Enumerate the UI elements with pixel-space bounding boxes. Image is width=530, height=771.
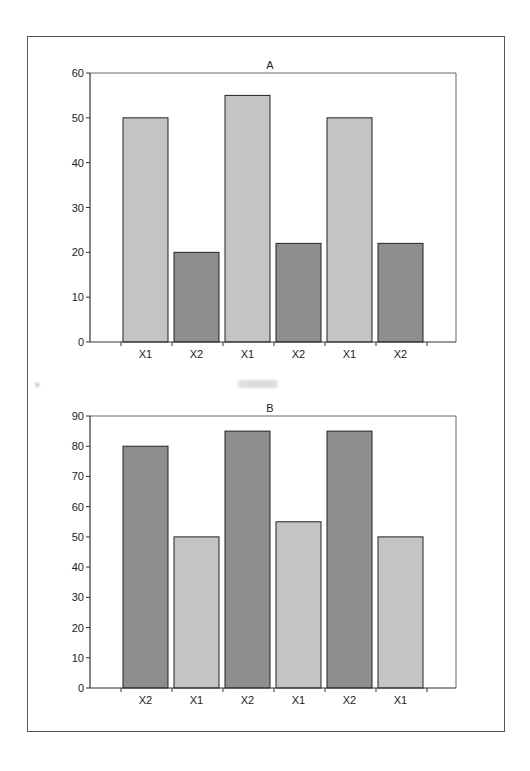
y-tick-label: 0: [78, 336, 84, 348]
y-tick-label: 80: [72, 440, 84, 452]
x-tick-label: X2: [343, 694, 356, 706]
x-tick-label: X2: [394, 348, 407, 360]
bar-x2: [123, 446, 168, 688]
bar-x1: [123, 118, 168, 342]
y-tick-label: 60: [72, 67, 84, 79]
chart-title: A: [266, 59, 274, 71]
x-tick-label: X1: [190, 694, 203, 706]
charts-canvas: X1X2X1X2X1X20102030405060AX2X1X2X1X2X101…: [0, 0, 530, 771]
bar-x1: [276, 522, 321, 688]
x-tick-label: X2: [241, 694, 254, 706]
bar-x1: [225, 95, 270, 342]
x-tick-label: X1: [394, 694, 407, 706]
y-tick-label: 20: [72, 246, 84, 258]
y-tick-label: 10: [72, 291, 84, 303]
x-tick-label: X2: [139, 694, 152, 706]
bar-x2: [174, 252, 219, 342]
y-tick-label: 40: [72, 157, 84, 169]
x-tick-label: X1: [343, 348, 356, 360]
y-tick-label: 50: [72, 531, 84, 543]
bar-x2: [327, 431, 372, 688]
x-tick-label: X1: [241, 348, 254, 360]
y-tick-label: 0: [78, 682, 84, 694]
bar-x1: [327, 118, 372, 342]
x-tick-label: X2: [292, 348, 305, 360]
y-tick-label: 50: [72, 112, 84, 124]
x-tick-label: X1: [292, 694, 305, 706]
bar-x2: [378, 243, 423, 342]
bar-x1: [174, 537, 219, 688]
y-tick-label: 30: [72, 591, 84, 603]
bar-x2: [225, 431, 270, 688]
bar-x2: [276, 243, 321, 342]
chart-title: B: [266, 402, 273, 414]
y-tick-label: 70: [72, 470, 84, 482]
x-tick-label: X1: [139, 348, 152, 360]
y-tick-label: 10: [72, 652, 84, 664]
bar-x1: [378, 537, 423, 688]
bar-chart-b: X2X1X2X1X2X10102030405060708090B: [72, 402, 456, 706]
x-tick-label: X2: [190, 348, 203, 360]
y-tick-label: 90: [72, 410, 84, 422]
y-tick-label: 30: [72, 202, 84, 214]
y-tick-label: 20: [72, 622, 84, 634]
bar-chart-a: X1X2X1X2X1X20102030405060A: [72, 59, 456, 360]
y-tick-label: 60: [72, 501, 84, 513]
y-tick-label: 40: [72, 561, 84, 573]
